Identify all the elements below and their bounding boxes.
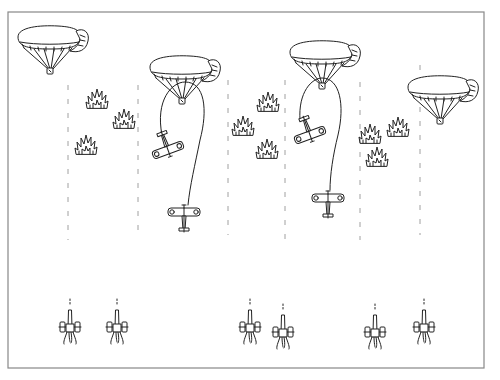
balloons — [18, 26, 478, 124]
aa-gun-icon — [59, 299, 81, 344]
flak-burst-icon — [256, 139, 278, 158]
aa-gun-icon — [239, 299, 261, 344]
flak-burst-icon — [86, 89, 108, 108]
balloon-icon — [408, 76, 478, 124]
balloon-icon — [150, 56, 220, 104]
aa-guns — [59, 299, 435, 349]
flak-burst-icon — [113, 109, 135, 128]
balloon-icon — [18, 26, 88, 74]
illustration-canvas — [0, 0, 500, 380]
biplane-icon — [168, 205, 200, 232]
biplane-icon — [312, 191, 344, 218]
illustration-frame — [8, 12, 484, 368]
biplanes — [146, 111, 344, 232]
flak-burst-icon — [257, 92, 279, 111]
flak-burst-icon — [75, 135, 97, 154]
flak-burst-icon — [387, 117, 409, 136]
aa-gun-icon — [106, 299, 128, 344]
aa-gun-icon — [413, 299, 435, 344]
balloon-icon — [290, 41, 360, 89]
aa-gun-icon — [364, 304, 386, 349]
flak-burst-icon — [359, 124, 381, 143]
biplane-icon — [288, 111, 327, 147]
flak-bursts — [75, 89, 409, 166]
tracer-lines — [68, 65, 420, 245]
biplane-icon — [146, 126, 185, 162]
flak-burst-icon — [232, 116, 254, 135]
aa-gun-icon — [272, 304, 294, 349]
flak-burst-icon — [366, 147, 388, 166]
